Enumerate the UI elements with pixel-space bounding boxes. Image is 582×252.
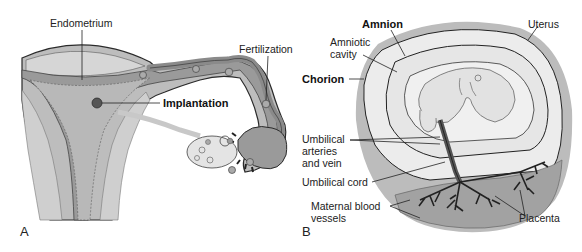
- panel-letter-b: B: [302, 226, 311, 238]
- label-umbilical-cord: Umbilical cord: [302, 176, 368, 188]
- label-maternal-blood-vessels: Maternal blood vessels: [311, 200, 380, 224]
- label-fertilization: Fertilization: [239, 43, 293, 55]
- label-implantation: Implantation: [163, 97, 228, 109]
- pregnancy-diagram-b: [0, 0, 582, 252]
- panel-letter-a: A: [20, 226, 29, 238]
- label-umbilical-vessels: Umbilical arteries and vein: [302, 133, 345, 169]
- label-amnion: Amnion: [362, 18, 403, 30]
- label-endometrium: Endometrium: [50, 17, 112, 29]
- label-chorion: Chorion: [302, 73, 344, 85]
- label-amniotic-cavity: Amniotic cavity: [330, 36, 370, 60]
- figure: Endometrium Fertilization Implantation A…: [0, 0, 582, 252]
- label-placenta: Placenta: [519, 212, 560, 224]
- label-uterus: Uterus: [528, 18, 559, 30]
